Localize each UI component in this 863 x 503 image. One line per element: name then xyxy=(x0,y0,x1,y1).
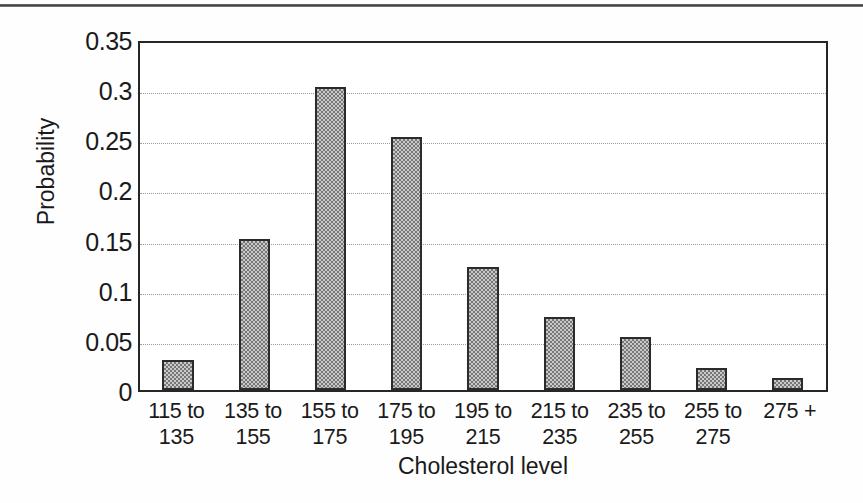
y-axis-tick-label: 0 xyxy=(119,380,132,405)
x-axis-tick-label: 195 to 215 xyxy=(445,398,522,450)
bar-slot xyxy=(292,43,368,390)
x-axis-tick-label: 255 to 275 xyxy=(675,398,752,450)
x-axis-tick-label: 235 to 255 xyxy=(598,398,675,450)
bar-slot xyxy=(216,43,292,390)
x-axis-tick-label: 115 to 135 xyxy=(138,398,215,450)
y-axis-tick-label: 0.1 xyxy=(99,279,132,304)
bar-slot xyxy=(597,43,673,390)
x-axis-title: Cholesterol level xyxy=(138,455,828,478)
x-axis-tick-label: 215 to 235 xyxy=(521,398,598,450)
bar xyxy=(772,378,803,390)
y-axis-tick-labels: 00.050.10.150.20.250.30.35 xyxy=(52,41,132,392)
x-axis-tick-labels: 115 to 135135 to 155155 to 175175 to 195… xyxy=(138,398,828,450)
bar-slot xyxy=(521,43,597,390)
bar-slot xyxy=(369,43,445,390)
bar-slot xyxy=(750,43,826,390)
bar xyxy=(162,360,193,390)
bar xyxy=(467,267,498,390)
y-axis-tick-label: 0.15 xyxy=(85,229,132,254)
bar-series xyxy=(140,43,826,390)
bar xyxy=(315,87,346,390)
bar-slot xyxy=(140,43,216,390)
y-axis-tick-label: 0.05 xyxy=(85,329,132,354)
x-axis-tick-label: 275 + xyxy=(751,398,828,450)
x-axis-tick-label: 135 to 155 xyxy=(215,398,292,450)
plot-area xyxy=(138,41,828,392)
y-axis-tick-label: 0.25 xyxy=(85,129,132,154)
bar-slot xyxy=(674,43,750,390)
y-axis-tick-label: 0.3 xyxy=(99,79,132,104)
y-axis-tick-label: 0.35 xyxy=(85,29,132,54)
page-edge-rule xyxy=(0,4,863,7)
x-axis-tick-label: 175 to 195 xyxy=(368,398,445,450)
bar xyxy=(391,137,422,390)
bar-slot xyxy=(445,43,521,390)
chart-figure: Probability 00.050.10.150.20.250.30.35 1… xyxy=(0,0,863,503)
bar xyxy=(239,239,270,390)
x-axis-tick-label: 155 to 175 xyxy=(291,398,368,450)
bar xyxy=(696,368,727,390)
bar xyxy=(620,337,651,390)
bar xyxy=(544,317,575,390)
y-axis-tick-label: 0.2 xyxy=(99,179,132,204)
